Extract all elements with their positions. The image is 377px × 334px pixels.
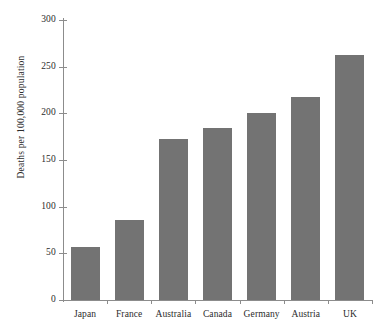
y-tick-label: 100 [20, 201, 56, 211]
plot-area [63, 20, 372, 300]
y-tick-label-wrap: 100 [20, 201, 56, 213]
x-tick-label: Japan [63, 309, 107, 319]
y-tick-label-wrap: 150 [20, 154, 56, 166]
y-tick-label: 200 [20, 107, 56, 117]
y-tick-label-wrap: 250 [20, 61, 56, 73]
bar [71, 247, 100, 300]
bar [335, 55, 364, 300]
x-tick-mark [284, 300, 285, 304]
x-tick-label: Canada [195, 309, 239, 319]
bar-chart: Deaths per 100,000 population 0501001502… [0, 0, 377, 334]
x-tick-mark [151, 300, 152, 304]
x-tick-label: UK [328, 309, 372, 319]
x-tick-mark [107, 300, 108, 304]
y-tick-label-wrap: 0 [20, 294, 56, 306]
y-tick-label: 0 [20, 294, 56, 304]
y-tick-label: 150 [20, 154, 56, 164]
bar [247, 113, 276, 300]
y-tick-label: 250 [20, 61, 56, 71]
y-tick-label-wrap: 200 [20, 107, 56, 119]
x-tick-mark [328, 300, 329, 304]
x-tick-mark [195, 300, 196, 304]
y-tick-mark [59, 300, 67, 301]
y-tick-label-wrap: 300 [20, 14, 56, 26]
y-tick-label-wrap: 50 [20, 247, 56, 259]
y-tick-label: 300 [20, 14, 56, 24]
x-tick-label: Germany [240, 309, 284, 319]
bar [291, 97, 320, 300]
x-axis-line [63, 300, 372, 301]
x-tick-mark [372, 300, 373, 304]
x-tick-label: France [107, 309, 151, 319]
y-tick-label: 50 [20, 247, 56, 257]
bar [203, 128, 232, 300]
bar [159, 139, 188, 300]
x-tick-label: Australia [151, 309, 195, 319]
x-tick-label: Austria [284, 309, 328, 319]
x-tick-mark [240, 300, 241, 304]
bar [115, 220, 144, 300]
